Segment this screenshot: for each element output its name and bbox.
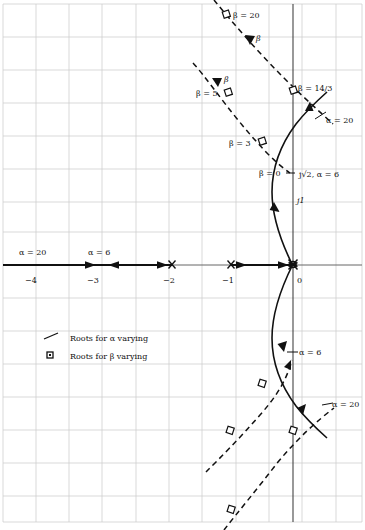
label-beta-arrow-upper: β xyxy=(255,34,261,43)
tick-label-minus2: −2 xyxy=(163,276,175,285)
tick-label-minus3: −3 xyxy=(87,276,99,285)
legend-label-beta: Roots for β varying xyxy=(70,352,147,361)
beta-marker-14-3 xyxy=(289,86,297,94)
label-j1: j1 xyxy=(295,196,305,205)
beta-locus-lower-outer xyxy=(224,408,334,530)
alpha-arrow-upper-1 xyxy=(270,202,280,212)
label-jsqrt2-alpha6: j√2, α = 6 xyxy=(298,170,339,179)
grid-layer xyxy=(3,4,362,522)
root-locus-figure: −4 −3 −2 −1 0 j1 j√2, α = 6 α = 20 α = 6… xyxy=(0,0,365,530)
label-beta20: β = 20 xyxy=(233,11,260,20)
beta-marker-3 xyxy=(258,137,266,145)
label-beta0: β = 0 xyxy=(259,169,281,178)
beta-marker-lower-2 xyxy=(226,426,234,434)
beta-locus-upper-inner xyxy=(193,63,290,173)
label-alpha20-upper: α = 20 xyxy=(326,116,353,125)
tick-label-origin: 0 xyxy=(297,276,302,285)
arrow-right-c xyxy=(278,261,289,269)
tick-label-minus1: −1 xyxy=(222,276,234,285)
beta-marker-20 xyxy=(222,10,230,18)
label-alpha6-real: α = 6 xyxy=(88,248,110,257)
axis-layer xyxy=(3,4,362,522)
label-beta3: β = 3 xyxy=(229,139,251,148)
legend: Roots for α varying Roots for β varying xyxy=(44,333,148,361)
legend-glyph-square-dot xyxy=(49,354,51,356)
legend-glyph-line xyxy=(44,333,58,339)
label-alpha6-lower: α = 6 xyxy=(299,348,321,357)
arrow-right-a xyxy=(85,261,96,269)
text-labels: −4 −3 −2 −1 0 j1 j√2, α = 6 α = 20 α = 6… xyxy=(19,11,359,409)
label-beta5: β = 5 xyxy=(196,89,218,98)
beta-marker-lower-1 xyxy=(258,379,266,387)
alpha-arrow-lower-1 xyxy=(278,341,288,352)
tick-label-minus4: −4 xyxy=(25,276,37,285)
legend-label-alpha: Roots for α varying xyxy=(70,334,148,343)
beta-marker-lower-4 xyxy=(227,505,235,513)
beta-locus-arrows xyxy=(212,35,291,370)
arrow-right-b xyxy=(236,261,247,269)
label-beta-arrow-left: β xyxy=(223,75,229,84)
label-alpha20-lower: α = 20 xyxy=(332,400,359,409)
beta-locus-upper-outer xyxy=(214,0,333,124)
arrow-left-a xyxy=(108,261,119,269)
beta-arrow-inner xyxy=(212,78,222,87)
arrow-left-b xyxy=(157,261,168,269)
beta-marker-lower-3 xyxy=(289,426,297,434)
beta-arrow-outer xyxy=(245,35,255,45)
beta-marker-5 xyxy=(224,88,232,96)
plot-canvas: −4 −3 −2 −1 0 j1 j√2, α = 6 α = 20 α = 6… xyxy=(0,0,365,530)
label-alpha20-real: α = 20 xyxy=(19,248,46,257)
alpha-locus-upper xyxy=(272,92,327,266)
label-beta14over3: β = 14/3 xyxy=(298,84,332,93)
beta-arrow-lower-inner xyxy=(284,360,291,370)
